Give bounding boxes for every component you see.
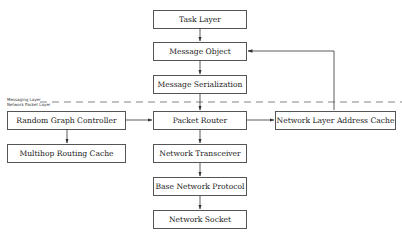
node-packet-router: Packet Router	[153, 111, 247, 130]
network-packet-layer-label: Network Packet Layer	[7, 102, 50, 107]
node-random-graph-controller: Random Graph Controller	[7, 111, 126, 130]
node-message-serialization: Message Serialization	[153, 75, 247, 94]
node-network-transceiver: Network Transceiver	[153, 144, 247, 163]
node-message-object: Message Object	[153, 42, 247, 61]
node-multihop-routing-cache: Multihop Routing Cache	[7, 144, 126, 163]
node-base-network-protocol: Base Network Protocol	[153, 177, 247, 196]
node-network-socket: Network Socket	[153, 210, 247, 229]
node-task-layer: Task Layer	[153, 10, 247, 29]
node-network-layer-address-cache: Network Layer Address Cache	[275, 111, 396, 130]
